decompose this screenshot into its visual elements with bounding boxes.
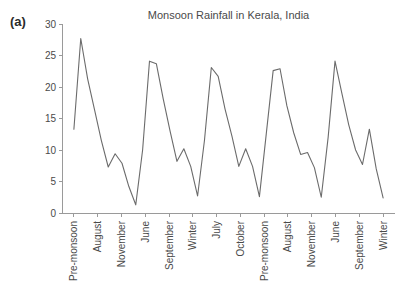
x-tick-label: August: [282, 221, 293, 252]
x-tick-label: June: [330, 221, 341, 243]
x-tick-label: Pre-monsoon: [259, 221, 270, 281]
line-chart-plot: 051015202530 Pre-monsoonAugustNovemberJu…: [0, 0, 413, 305]
x-tick-label: August: [92, 221, 103, 252]
x-axis: Pre-monsoonAugustNovemberJuneSeptemberWi…: [62, 213, 395, 281]
x-tick-label: July: [211, 221, 222, 239]
figure-panel: (a) Monsoon Rainfall in Kerala, India 05…: [0, 0, 413, 305]
y-tick-label: 15: [45, 113, 57, 124]
y-tick-label: 20: [45, 82, 57, 93]
y-tick-label: 30: [45, 19, 57, 30]
x-tick-label: Winter: [187, 220, 198, 250]
x-tick-label: September: [354, 220, 365, 270]
x-tick-label: November: [116, 220, 127, 267]
y-tick-label: 10: [45, 145, 57, 156]
data-series-rainfall: [74, 38, 383, 204]
y-tick-label: 5: [50, 176, 56, 187]
rainfall-line: [74, 38, 383, 204]
y-axis: 051015202530: [45, 19, 62, 219]
x-tick-label: September: [164, 220, 175, 270]
x-tick-label: November: [306, 220, 317, 267]
x-tick-label: June: [140, 221, 151, 243]
x-tick-label: Winter: [378, 220, 389, 250]
x-tick-label: Pre-monsoon: [68, 221, 79, 281]
y-tick-label: 0: [50, 208, 56, 219]
y-tick-label: 25: [45, 50, 57, 61]
x-tick-label: October: [235, 220, 246, 256]
